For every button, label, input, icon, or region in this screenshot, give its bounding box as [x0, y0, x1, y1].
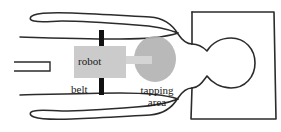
- belt-bar-top: [99, 30, 104, 46]
- tapping-area-label-line1: tapping: [131, 84, 183, 96]
- torso-rectangle: [191, 12, 276, 119]
- schematic-drawing: [0, 0, 281, 132]
- robot-label: robot: [78, 56, 101, 67]
- tapping-area-label-line2: area: [131, 96, 183, 108]
- belt-label: belt: [71, 84, 88, 95]
- tapping-area-label: tapping area: [131, 84, 183, 108]
- head-circle: [192, 38, 255, 88]
- belt-bar-bottom: [99, 76, 104, 95]
- table-edge-bracket: [14, 62, 50, 71]
- figure-container: robot belt tapping area: [0, 0, 281, 132]
